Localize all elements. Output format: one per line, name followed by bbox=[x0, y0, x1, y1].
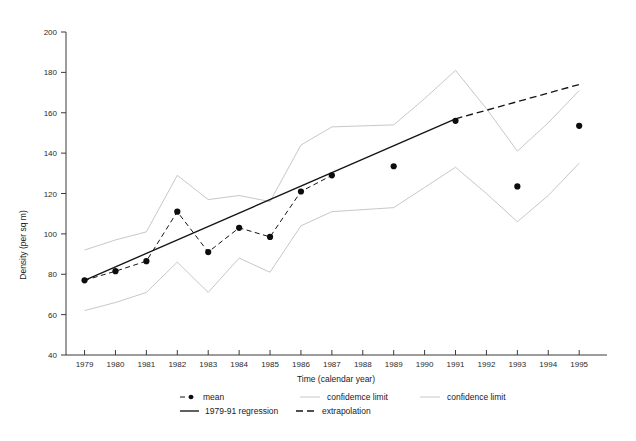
legend-label-confidence-limit-upper: confidemce limit bbox=[327, 392, 389, 402]
x-tick-label: 1994 bbox=[539, 360, 557, 369]
mean-data-point bbox=[267, 234, 273, 240]
x-tick-label: 1985 bbox=[261, 360, 279, 369]
y-tick-label: 60 bbox=[48, 311, 57, 320]
y-tick-label: 120 bbox=[44, 190, 58, 199]
x-tick-label: 1988 bbox=[354, 360, 372, 369]
x-tick-label: 1987 bbox=[323, 360, 341, 369]
mean-data-point bbox=[174, 209, 180, 215]
density-time-line-chart: 406080100120140160180200 197919801981198… bbox=[0, 0, 636, 441]
x-axis-title: Time (calendar year) bbox=[297, 374, 375, 384]
mean-data-point bbox=[205, 249, 211, 255]
x-tick-label: 1979 bbox=[76, 360, 94, 369]
legend-label-confidence-limit-lower: confidence limit bbox=[447, 392, 506, 402]
y-tick-label: 200 bbox=[44, 28, 58, 37]
y-tick-label: 40 bbox=[48, 351, 57, 360]
x-tick-label: 1981 bbox=[137, 360, 155, 369]
legend-label-regression: 1979-91 regression bbox=[205, 406, 279, 416]
x-tick-label: 1980 bbox=[107, 360, 125, 369]
x-tick-label: 1991 bbox=[447, 360, 465, 369]
mean-data-point bbox=[576, 123, 582, 129]
mean-data-point bbox=[329, 172, 335, 178]
x-tick-label: 1992 bbox=[478, 360, 496, 369]
x-tick-label: 1993 bbox=[508, 360, 526, 369]
mean-data-point bbox=[391, 163, 397, 169]
y-axis-title: Density (per sq m) bbox=[18, 210, 28, 280]
mean-data-point bbox=[143, 258, 149, 264]
y-tick-label: 80 bbox=[48, 270, 57, 279]
x-tick-label: 1984 bbox=[230, 360, 248, 369]
y-tick-label: 140 bbox=[44, 149, 58, 158]
legend-label-mean: mean bbox=[203, 392, 225, 402]
x-tick-label: 1995 bbox=[570, 360, 588, 369]
mean-data-point bbox=[298, 188, 304, 194]
y-tick-label: 100 bbox=[44, 230, 58, 239]
mean-data-point bbox=[236, 225, 242, 231]
mean-data-point bbox=[112, 268, 118, 274]
mean-data-point bbox=[452, 118, 458, 124]
x-tick-label: 1989 bbox=[385, 360, 403, 369]
legend-label-extrapolation: extrapolation bbox=[322, 406, 371, 416]
x-tick-label: 1983 bbox=[199, 360, 217, 369]
y-tick-label: 180 bbox=[44, 68, 58, 77]
x-tick-label: 1990 bbox=[416, 360, 434, 369]
mean-data-point bbox=[81, 277, 87, 283]
mean-data-point bbox=[514, 183, 520, 189]
x-tick-label: 1982 bbox=[168, 360, 186, 369]
chart-figure: 406080100120140160180200 197919801981198… bbox=[0, 0, 636, 441]
x-tick-label: 1986 bbox=[292, 360, 310, 369]
legend-mean-dot-icon bbox=[189, 395, 194, 400]
y-tick-label: 160 bbox=[44, 109, 58, 118]
